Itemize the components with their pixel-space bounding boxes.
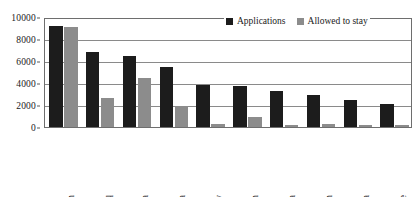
bar: [395, 125, 409, 127]
y-tick-label: 6000: [16, 57, 36, 67]
bar: [270, 91, 284, 127]
bar: [123, 56, 137, 128]
legend-swatch-icon: [297, 18, 304, 25]
bar: [196, 85, 210, 127]
x-tick-label: Afghanistan: [66, 195, 76, 197]
bar: [248, 117, 262, 127]
plot-area: [44, 18, 412, 128]
y-tick-mark: [37, 84, 40, 85]
bar-group: [339, 19, 376, 127]
y-tick-mark: [37, 106, 40, 107]
bar: [344, 100, 358, 128]
y-axis: 0200040006000800010000: [0, 18, 40, 128]
legend-label: Allowed to stay: [308, 16, 368, 26]
y-tick-label: 0: [31, 123, 36, 133]
x-tick-label: FR Yugoslavia: [287, 195, 297, 197]
bar-group: [266, 19, 303, 127]
x-tick-label: Turkey: [214, 195, 224, 197]
y-tick-mark: [37, 62, 40, 63]
bar-group: [303, 19, 340, 127]
y-tick-mark: [37, 40, 40, 41]
bar: [211, 124, 225, 127]
x-tick-label: Somalia: [140, 195, 150, 197]
bar: [233, 86, 247, 127]
x-tick-label: Zimbabwe: [398, 195, 408, 197]
bar-group: [119, 19, 156, 127]
bar: [101, 98, 115, 127]
x-tick-label: Pakistan: [324, 195, 334, 197]
bar: [307, 95, 321, 127]
x-axis: AfghanistanIraqSomaliaSri LankaTurkeyIra…: [44, 129, 412, 197]
bars-layer: [45, 19, 411, 127]
bar: [160, 67, 174, 128]
legend-swatch-icon: [226, 18, 233, 25]
bar-group: [82, 19, 119, 127]
x-tick-label: China: [361, 195, 371, 197]
bar: [380, 104, 394, 127]
bar: [322, 124, 336, 127]
y-tick-mark: [37, 18, 40, 19]
bar: [138, 78, 152, 128]
chart-container: 0200040006000800010000 AfghanistanIraqSo…: [0, 0, 416, 197]
y-tick-label: 2000: [16, 101, 36, 111]
bar-group: [45, 19, 82, 127]
bar: [285, 125, 299, 127]
bar-group: [155, 19, 192, 127]
legend-entry: Allowed to stay: [297, 16, 368, 26]
x-tick-label: Iran: [250, 195, 260, 197]
bar-group: [192, 19, 229, 127]
bar-group: [376, 19, 413, 127]
legend-label: Applications: [237, 16, 286, 26]
x-tick-label: Iraq: [103, 195, 113, 197]
chart-legend: ApplicationsAllowed to stay: [224, 15, 370, 27]
bar: [86, 52, 100, 127]
bar: [49, 26, 63, 127]
bar-group: [229, 19, 266, 127]
bar: [359, 125, 373, 127]
bar: [64, 27, 78, 127]
legend-entry: Applications: [226, 16, 286, 26]
y-tick-label: 4000: [16, 79, 36, 89]
y-tick-label: 10000: [11, 13, 36, 23]
x-tick-label: Sri Lanka: [177, 195, 187, 197]
y-tick-label: 8000: [16, 35, 36, 45]
bar: [175, 106, 189, 127]
y-tick-mark: [37, 128, 40, 129]
